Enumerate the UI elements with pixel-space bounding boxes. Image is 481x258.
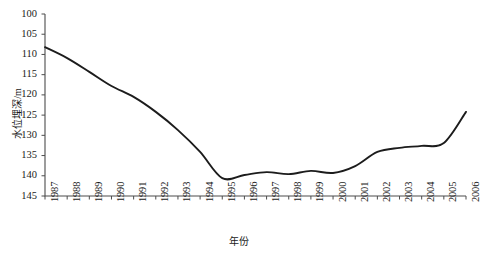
y-tick-label: 110 — [13, 49, 37, 60]
x-tick-label: 1999 — [315, 182, 326, 202]
x-tick-label: 1995 — [227, 182, 238, 202]
x-tick-label: 2003 — [404, 182, 415, 202]
x-tick-label: 2000 — [338, 182, 349, 202]
x-tick-label: 1997 — [271, 182, 282, 202]
x-tick-label: 2001 — [360, 182, 371, 202]
x-tick-label: 1994 — [205, 182, 216, 202]
x-axis-title: 年份 — [0, 236, 477, 247]
x-tick-label: 2005 — [448, 182, 459, 202]
y-tick-label: 115 — [13, 69, 37, 80]
x-tick-label: 1989 — [94, 182, 105, 202]
x-tick-label: 1990 — [116, 182, 127, 202]
y-tick-label: 125 — [13, 110, 37, 121]
y-tick-label: 130 — [13, 130, 37, 141]
y-tick-label: 100 — [13, 9, 37, 20]
x-tick-label: 2004 — [426, 182, 437, 202]
x-tick-label: 1996 — [249, 182, 260, 202]
y-tick-label: 105 — [13, 29, 37, 40]
x-tick-label: 2002 — [382, 182, 393, 202]
chart-axes — [42, 14, 467, 200]
x-tick-label: 2006 — [471, 182, 481, 202]
x-tick-label: 1998 — [293, 182, 304, 202]
data-series-line — [45, 47, 466, 179]
x-tick-label: 1987 — [50, 182, 61, 202]
y-tick-label: 120 — [13, 89, 37, 100]
axis-frame — [45, 14, 466, 196]
y-tick-label: 145 — [13, 191, 37, 202]
x-tick-label: 1993 — [182, 182, 193, 202]
x-tick-label: 1991 — [138, 182, 149, 202]
x-tick-label: 1988 — [72, 182, 83, 202]
y-tick-label: 135 — [13, 150, 37, 161]
y-tick-label: 140 — [13, 170, 37, 181]
x-tick-label: 1992 — [160, 182, 171, 202]
